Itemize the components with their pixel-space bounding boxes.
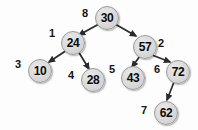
tree-edge-n24-to-n28 <box>78 51 89 69</box>
tree-node-30[interactable]: 30 <box>95 6 119 30</box>
tree-node-28[interactable]: 28 <box>81 68 105 92</box>
tree-edge-n30-to-n24 <box>79 24 99 35</box>
tree-node-10[interactable]: 10 <box>28 59 52 83</box>
node-order-label-43: 5 <box>109 64 115 75</box>
tree-node-57[interactable]: 57 <box>133 35 157 59</box>
node-order-label-24: 1 <box>49 28 55 39</box>
tree-edge-n30-to-n57 <box>115 24 136 36</box>
node-order-label-28: 4 <box>68 70 74 81</box>
tree-node-24[interactable]: 24 <box>61 31 85 55</box>
tree-node-43[interactable]: 43 <box>121 66 145 90</box>
node-order-label-72: 6 <box>154 64 160 75</box>
tree-edge-n72-to-n62 <box>167 82 174 100</box>
binary-tree-diagram: 830124257310428543672762 <box>0 0 198 130</box>
tree-node-72[interactable]: 72 <box>166 60 190 84</box>
tree-edge-n57-to-n72 <box>152 55 170 62</box>
node-order-label-10: 3 <box>15 59 21 70</box>
tree-node-62[interactable]: 62 <box>154 101 178 125</box>
node-order-label-57: 2 <box>158 38 164 49</box>
node-order-label-62: 7 <box>141 105 147 116</box>
node-order-label-30: 8 <box>82 8 88 19</box>
